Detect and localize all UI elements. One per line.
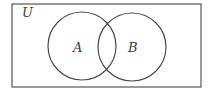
venn-diagram: U A B — [0, 0, 208, 93]
universe-rectangle — [12, 4, 201, 87]
set-a-label: A — [72, 40, 82, 55]
universe-label: U — [22, 5, 34, 20]
set-b-label: B — [127, 40, 138, 55]
